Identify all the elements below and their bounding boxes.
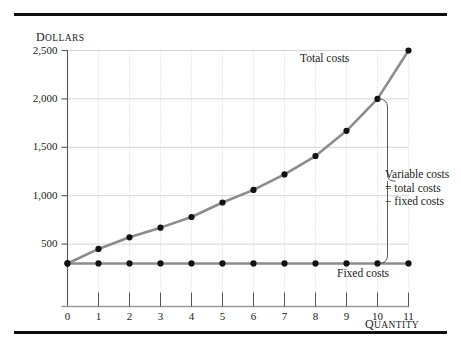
- series-line: [68, 51, 409, 264]
- data-point: [281, 171, 287, 177]
- series-fixed-costs: [64, 260, 411, 266]
- data-point: [343, 260, 349, 266]
- series-total-costs: [64, 47, 411, 266]
- data-point: [219, 260, 225, 266]
- gridlines: [68, 51, 409, 293]
- data-point: [250, 260, 256, 266]
- y-tick-label: 2,000: [16, 92, 58, 104]
- data-point: [157, 260, 163, 266]
- data-point: [312, 153, 318, 159]
- x-tick-label: 7: [275, 310, 295, 322]
- x-tick-label: 8: [306, 310, 326, 322]
- x-tick-label: 0: [58, 310, 78, 322]
- data-point: [188, 214, 194, 220]
- total-costs-label: Total costs: [300, 52, 349, 64]
- fixed-costs-label: Fixed costs: [337, 267, 389, 279]
- data-point: [405, 47, 411, 53]
- y-tick-label: 2,500: [16, 44, 58, 56]
- x-tick-label: 5: [213, 310, 233, 322]
- variable-costs-annotation: Variable costs = total costs − fixed cos…: [385, 168, 449, 209]
- data-point: [126, 260, 132, 266]
- y-tick-label: 1,500: [16, 140, 58, 152]
- x-tick-label: 6: [244, 310, 264, 322]
- data-point: [405, 260, 411, 266]
- data-point: [64, 260, 70, 266]
- data-point: [281, 260, 287, 266]
- x-tick-label: 10: [368, 310, 388, 322]
- data-point: [250, 187, 256, 193]
- data-point: [312, 260, 318, 266]
- y-axis-title-initial: D: [36, 30, 45, 44]
- x-tick-label: 11: [399, 310, 419, 322]
- variable-costs-line-1: Variable costs: [385, 168, 449, 182]
- x-tick-label: 2: [120, 310, 140, 322]
- x-tick-label: 3: [151, 310, 171, 322]
- data-point: [219, 199, 225, 205]
- data-point: [188, 260, 194, 266]
- data-point: [343, 128, 349, 134]
- y-tick-label: 500: [16, 237, 58, 249]
- data-point: [95, 260, 101, 266]
- x-tick-label: 1: [89, 310, 109, 322]
- x-axis-title-rest: UANTITY: [374, 320, 419, 330]
- data-point: [126, 234, 132, 240]
- data-point: [95, 246, 101, 252]
- x-tick-label: 9: [337, 310, 357, 322]
- data-point: [157, 225, 163, 231]
- x-tick-label: 4: [182, 310, 202, 322]
- variable-costs-line-3: − fixed costs: [385, 195, 449, 209]
- figure-container: DOLLARS QUANTITY Total costs Fixed costs…: [0, 0, 461, 347]
- variable-costs-line-2: = total costs: [385, 182, 449, 196]
- y-tick-label: 1,000: [16, 189, 58, 201]
- y-axis-title-rest: OLLARS: [45, 33, 84, 43]
